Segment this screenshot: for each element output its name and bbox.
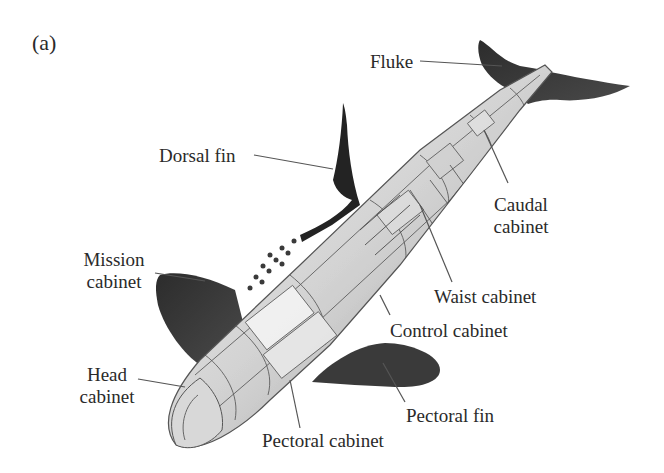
- label-mission-cabinet-line1: Mission: [78, 249, 150, 271]
- label-head-cabinet-line1: Head: [74, 364, 140, 386]
- label-pectoral-cabinet: Pectoral cabinet: [262, 430, 384, 452]
- label-caudal-cabinet: Caudal cabinet: [490, 194, 552, 238]
- label-mission-cabinet-line2: cabinet: [78, 271, 150, 293]
- label-fluke: Fluke: [370, 51, 413, 73]
- label-pectoral-fin: Pectoral fin: [406, 405, 494, 427]
- label-control-cabinet: Control cabinet: [390, 320, 508, 342]
- label-head-cabinet-line2: cabinet: [74, 386, 140, 408]
- panel-label: (a): [32, 30, 56, 56]
- fish-body: [168, 65, 552, 448]
- label-waist-cabinet: Waist cabinet: [434, 286, 536, 308]
- label-caudal-cabinet-line2: cabinet: [490, 216, 552, 238]
- robotic-fish-diagram: (a) Fluke Dorsal fin Caudal cabinet Miss…: [0, 0, 664, 473]
- right-pectoral-fin-shape: [312, 343, 440, 387]
- label-mission-cabinet: Mission cabinet: [78, 249, 150, 293]
- label-caudal-cabinet-line1: Caudal: [490, 194, 552, 216]
- label-dorsal-fin: Dorsal fin: [159, 145, 236, 167]
- label-head-cabinet: Head cabinet: [74, 364, 140, 408]
